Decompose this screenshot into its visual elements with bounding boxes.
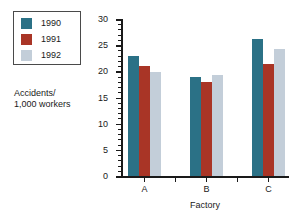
y-axis-minor-tick [118, 134, 122, 135]
x-axis-tick [206, 176, 208, 182]
y-axis-minor-tick [118, 160, 122, 161]
y-axis-tick-label: 15 [98, 94, 108, 103]
y-axis-minor-tick [118, 24, 122, 25]
bar [128, 56, 139, 176]
y-axis-minor-tick [118, 66, 122, 67]
y-axis-tick: 20 [116, 71, 123, 73]
legend-swatch-1990 [21, 18, 32, 29]
bar [190, 77, 201, 176]
x-axis-title: Factory [121, 201, 289, 210]
x-axis-tick-label: B [192, 185, 222, 194]
y-axis-minor-tick [118, 171, 122, 172]
x-axis-tick [268, 176, 270, 182]
y-axis-minor-tick [118, 113, 122, 114]
x-axis-tick-label: C [254, 185, 284, 194]
y-axis-minor-tick [118, 92, 122, 93]
y-axis-tick: 5 [116, 150, 123, 152]
y-axis-minor-tick [118, 145, 122, 146]
y-axis-minor-tick [118, 166, 122, 167]
legend-label-1991: 1991 [41, 35, 61, 44]
x-axis-tick [144, 176, 146, 182]
bar [274, 49, 285, 176]
bar [139, 66, 150, 176]
y-axis-minor-tick [118, 35, 122, 36]
bar [252, 39, 263, 176]
y-axis-tick: 15 [116, 98, 123, 100]
bar [201, 82, 212, 176]
y-axis-minor-tick [118, 29, 122, 30]
chart-legend: 1990 1991 1992 [13, 11, 81, 65]
legend-item: 1990 [21, 16, 80, 31]
x-axis-separator-tick [237, 176, 239, 182]
y-axis-minor-tick [118, 108, 122, 109]
y-axis-title-line-2: 1,000 workers [14, 99, 71, 110]
y-axis-tick-label: 25 [98, 41, 108, 50]
y-axis-tick-label: 20 [98, 67, 108, 76]
y-axis-minor-tick [118, 129, 122, 130]
y-axis-minor-tick [118, 82, 122, 83]
y-axis-minor-tick [118, 103, 122, 104]
chart-plot-area: 051015202530 ABC Factory [121, 19, 289, 177]
y-axis-tick-label: 30 [98, 15, 108, 24]
x-axis-line [116, 176, 289, 178]
y-axis-minor-tick [118, 155, 122, 156]
bar [212, 75, 223, 176]
y-axis-minor-tick [118, 56, 122, 57]
y-axis-minor-tick [118, 118, 122, 119]
legend-swatch-1992 [21, 50, 32, 61]
y-axis-tick-label: 5 [103, 146, 108, 155]
legend-item: 1992 [21, 48, 80, 63]
y-axis-tick: 10 [116, 124, 123, 126]
y-axis-tick: 0 [116, 176, 123, 178]
y-axis-tick-label: 10 [98, 120, 108, 129]
y-axis-tick: 30 [116, 19, 123, 21]
y-axis-tick-label: 0 [103, 172, 108, 181]
y-axis-minor-tick [118, 139, 122, 140]
y-axis-title-line-1: Accidents/ [14, 88, 71, 99]
y-axis-tick: 25 [116, 45, 123, 47]
x-axis-separator-tick [175, 176, 177, 182]
x-axis-tick-label: A [130, 185, 160, 194]
y-axis-minor-tick [118, 40, 122, 41]
y-axis-minor-tick [118, 77, 122, 78]
bar [263, 64, 274, 176]
legend-label-1992: 1992 [41, 51, 61, 60]
bar [150, 72, 161, 176]
legend-label-1990: 1990 [41, 19, 61, 28]
legend-swatch-1991 [21, 34, 32, 45]
legend-item: 1991 [21, 32, 80, 47]
y-axis-minor-tick [118, 50, 122, 51]
y-axis-minor-tick [118, 87, 122, 88]
y-axis-minor-tick [118, 61, 122, 62]
y-axis-title: Accidents/ 1,000 workers [14, 88, 71, 110]
